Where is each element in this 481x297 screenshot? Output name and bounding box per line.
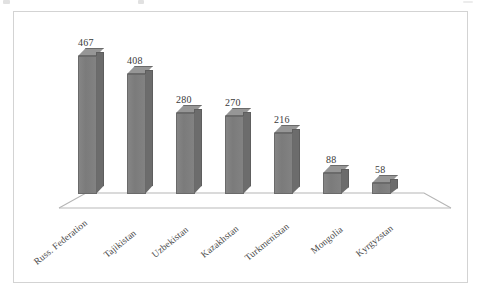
bar-value-label: 58 xyxy=(375,164,385,175)
bar-chart-plot-area: 467 408 280 270 216 xyxy=(14,12,467,282)
bar-value-label: 216 xyxy=(274,114,290,125)
bar-front-face xyxy=(323,173,342,194)
chart-frame: 467 408 280 270 216 xyxy=(13,11,468,283)
bar-side-face xyxy=(243,112,251,194)
bar-front-face xyxy=(176,113,195,194)
bar-front-face xyxy=(127,74,146,194)
bar-value-label: 408 xyxy=(127,55,143,66)
bar-front-face xyxy=(372,183,391,194)
bar-side-face xyxy=(96,52,104,194)
bar-value-label: 270 xyxy=(225,97,241,108)
bar-side-face xyxy=(194,109,202,194)
bar-front-face xyxy=(78,56,97,194)
bar-front-face xyxy=(225,116,244,194)
bar-value-label: 280 xyxy=(176,94,192,105)
bar-value-label: 88 xyxy=(326,154,336,165)
bar-front-face xyxy=(274,133,293,194)
bar-side-face xyxy=(145,70,153,194)
bar-value-label: 467 xyxy=(78,37,94,48)
bar-side-face xyxy=(292,129,300,194)
